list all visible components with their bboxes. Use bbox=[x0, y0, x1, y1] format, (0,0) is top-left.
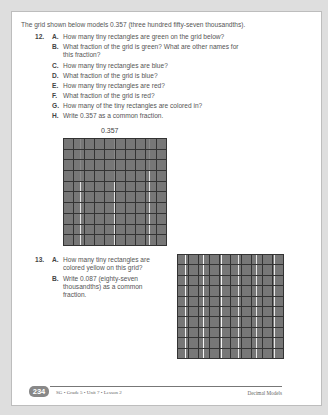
grid-square bbox=[252, 265, 262, 274]
grid-square bbox=[231, 317, 241, 326]
grid-label: 0.357 bbox=[101, 127, 119, 134]
grid-square bbox=[105, 150, 114, 160]
grid-square bbox=[126, 235, 135, 245]
grid-square bbox=[136, 214, 145, 224]
footer-divider bbox=[50, 386, 282, 387]
grid-square bbox=[252, 297, 262, 306]
grid-square bbox=[199, 255, 209, 264]
grid-square bbox=[273, 328, 283, 337]
grid-square bbox=[74, 182, 83, 192]
grid-square bbox=[273, 265, 283, 274]
grid-square bbox=[210, 328, 220, 337]
grid-square bbox=[64, 150, 73, 160]
decimal-grid-0357 bbox=[63, 138, 167, 246]
grid-square bbox=[189, 317, 199, 326]
grid-square bbox=[252, 338, 262, 347]
grid-square bbox=[210, 338, 220, 347]
grid-square bbox=[64, 192, 73, 202]
grid-square bbox=[178, 255, 188, 264]
grid-square bbox=[157, 192, 166, 202]
grid-square bbox=[126, 182, 135, 192]
grid-square bbox=[252, 286, 262, 295]
grid-square bbox=[273, 297, 283, 306]
grid-square bbox=[85, 235, 94, 245]
grid-square bbox=[273, 338, 283, 347]
grid-square bbox=[146, 235, 155, 245]
grid-square bbox=[157, 160, 166, 170]
grid-square bbox=[220, 307, 230, 316]
grid-square bbox=[105, 203, 114, 213]
grid-square bbox=[136, 225, 145, 235]
decimal-grid-blank bbox=[177, 254, 284, 359]
grid-square bbox=[146, 150, 155, 160]
grid-square bbox=[157, 214, 166, 224]
grid-square bbox=[157, 182, 166, 192]
grid-square bbox=[220, 255, 230, 264]
grid-square bbox=[126, 150, 135, 160]
part-letter: H. bbox=[52, 112, 59, 120]
grid-square bbox=[263, 349, 273, 358]
grid-square bbox=[220, 349, 230, 358]
part-text: How many tiny rectangles are red? bbox=[63, 82, 165, 90]
grid-square bbox=[231, 265, 241, 274]
grid-square bbox=[95, 150, 104, 160]
grid-square bbox=[146, 225, 155, 235]
grid-square bbox=[95, 235, 104, 245]
grid-square bbox=[178, 297, 188, 306]
grid-square bbox=[210, 265, 220, 274]
grid-square bbox=[189, 255, 199, 264]
grid-square bbox=[199, 286, 209, 295]
grid-square bbox=[242, 286, 252, 295]
grid-square bbox=[95, 225, 104, 235]
grid-square bbox=[242, 349, 252, 358]
grid-square bbox=[157, 235, 166, 245]
grid-square bbox=[231, 286, 241, 295]
grid-square bbox=[146, 192, 155, 202]
part-letter: D. bbox=[52, 72, 59, 80]
grid-square bbox=[146, 214, 155, 224]
part-text: How many of the tiny rectangles are colo… bbox=[63, 102, 202, 110]
grid-square bbox=[136, 192, 145, 202]
grid-square bbox=[157, 203, 166, 213]
grid-square bbox=[220, 286, 230, 295]
grid-square bbox=[74, 160, 83, 170]
grid-square bbox=[210, 255, 220, 264]
grid-square bbox=[64, 203, 73, 213]
part-text: Write 0.357 as a common fraction. bbox=[63, 112, 163, 120]
grid-square bbox=[105, 160, 114, 170]
grid-square bbox=[146, 171, 155, 181]
question-number: 13. bbox=[35, 256, 44, 264]
grid-square bbox=[242, 317, 252, 326]
grid-square bbox=[210, 286, 220, 295]
grid-square bbox=[126, 203, 135, 213]
part-text: colored yellow on this grid? bbox=[63, 264, 143, 272]
grid-square bbox=[178, 265, 188, 274]
grid-square bbox=[231, 338, 241, 347]
grid-square bbox=[178, 349, 188, 358]
grid-square bbox=[95, 192, 104, 202]
grid-square bbox=[273, 349, 283, 358]
grid-square bbox=[231, 276, 241, 285]
grid-square bbox=[178, 307, 188, 316]
grid-square bbox=[85, 192, 94, 202]
grid-square bbox=[210, 276, 220, 285]
part-letter: A. bbox=[52, 33, 59, 41]
grid-square bbox=[64, 160, 73, 170]
part-text: this fraction? bbox=[63, 51, 100, 59]
grid-square bbox=[178, 317, 188, 326]
grid-square bbox=[116, 225, 125, 235]
grid-square bbox=[85, 160, 94, 170]
grid-square bbox=[74, 139, 83, 149]
grid-square bbox=[116, 192, 125, 202]
grid-square bbox=[252, 307, 262, 316]
grid-square bbox=[199, 297, 209, 306]
grid-square bbox=[220, 338, 230, 347]
grid-square bbox=[178, 276, 188, 285]
grid-square bbox=[116, 171, 125, 181]
grid-square bbox=[64, 182, 73, 192]
grid-square bbox=[74, 150, 83, 160]
grid-square bbox=[273, 286, 283, 295]
part-letter: A. bbox=[52, 256, 59, 264]
grid-square bbox=[126, 139, 135, 149]
grid-square bbox=[189, 286, 199, 295]
